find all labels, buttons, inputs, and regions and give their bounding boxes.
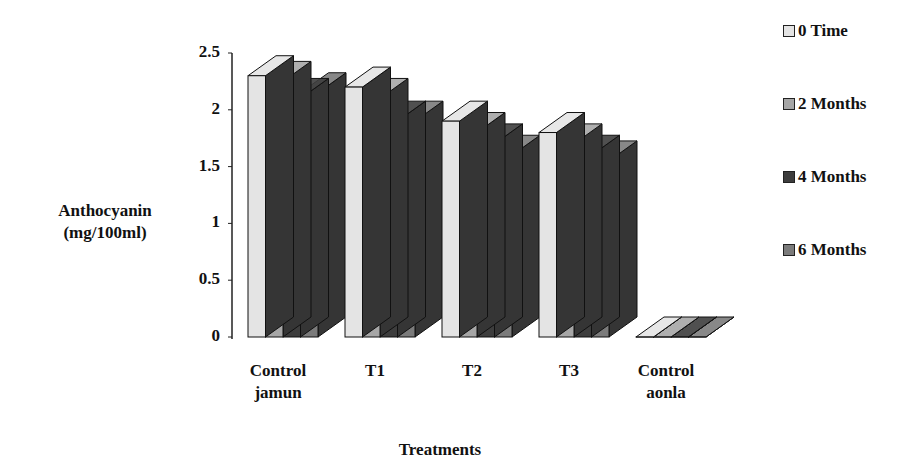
y-axis-title: Anthocyanin (mg/100ml) xyxy=(20,200,190,244)
x-category-label: T1 xyxy=(320,360,430,382)
bar-front-face xyxy=(345,87,363,337)
bar-side-face xyxy=(557,113,585,337)
legend-item: 4 Months xyxy=(783,166,866,188)
legend-swatch xyxy=(783,98,795,110)
y-tick-label: 0 xyxy=(180,326,220,346)
x-axis-title: Treatments xyxy=(330,440,550,460)
bar-front-face xyxy=(539,133,557,337)
bar-side-face xyxy=(460,101,488,337)
legend-swatch xyxy=(783,171,795,183)
legend-label: 4 Months xyxy=(798,167,866,187)
legend-swatch xyxy=(783,25,795,37)
bar-side-face xyxy=(363,67,391,337)
legend-swatch xyxy=(783,244,795,256)
y-tick-label: 2 xyxy=(180,99,220,119)
legend-item: 6 Months xyxy=(783,239,866,261)
legend: 0 Time2 Months4 Months6 Months xyxy=(783,20,866,312)
bar-side-face xyxy=(266,56,294,337)
y-tick-label: 0.5 xyxy=(180,269,220,289)
y-tick-label: 1.5 xyxy=(180,156,220,176)
bar-front-face xyxy=(442,121,460,337)
legend-item: 2 Months xyxy=(783,93,866,115)
x-category-label: Controljamun xyxy=(223,360,333,404)
y-axis-title-line1: Anthocyanin xyxy=(20,200,190,222)
y-tick-label: 1 xyxy=(180,212,220,232)
x-category-label: T2 xyxy=(417,360,527,382)
x-category-label: Controlaonla xyxy=(611,360,721,404)
y-axis-title-line2: (mg/100ml) xyxy=(20,222,190,244)
y-tick-label: 2.5 xyxy=(180,42,220,62)
legend-item: 0 Time xyxy=(783,20,866,42)
legend-label: 6 Months xyxy=(798,240,866,260)
legend-label: 2 Months xyxy=(798,94,866,114)
legend-label: 0 Time xyxy=(798,21,848,41)
x-category-label: T3 xyxy=(514,360,624,382)
bar-front-face xyxy=(248,76,266,337)
